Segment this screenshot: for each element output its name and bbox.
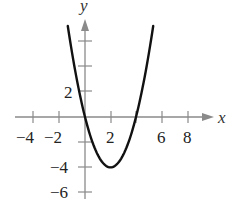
chart: −4 −2 2 6 8 2 −4 −6 x y xyxy=(0,0,230,199)
x-tick-labels: −4 −2 2 6 8 xyxy=(16,128,192,147)
y-axis-arrow-icon xyxy=(81,19,89,31)
x-tick-label: −2 xyxy=(44,128,62,147)
x-axis xyxy=(15,113,214,121)
x-axis-arrow-icon xyxy=(202,113,214,121)
x-tick-label: 8 xyxy=(183,128,192,147)
x-tick-label: −4 xyxy=(16,128,35,147)
y-tick-label: −4 xyxy=(50,158,69,177)
y-axis-label: y xyxy=(78,0,88,15)
y-tick-label: −6 xyxy=(50,183,68,199)
x-tick-label: 2 xyxy=(106,128,115,147)
x-tick-label: 6 xyxy=(157,128,166,147)
x-axis-label: x xyxy=(217,108,226,127)
y-tick-label: 2 xyxy=(64,83,73,102)
